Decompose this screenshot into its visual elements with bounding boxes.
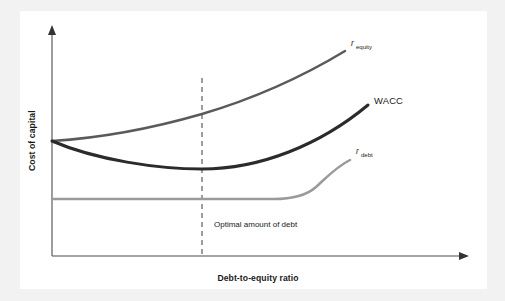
series-label-r-debt-base: r: [356, 147, 359, 156]
series-label-r-equity-base: r: [351, 39, 354, 48]
y-axis-title: Cost of capital: [27, 110, 37, 171]
series-label-wacc: WACC: [374, 95, 403, 106]
optimal-debt-annotation: Optimal amount of debt: [214, 220, 298, 229]
series-label-r-equity: r equity: [351, 39, 372, 50]
x-axis-title: Debt-to-equity ratio: [217, 273, 298, 283]
cost-of-capital-chart: Cost of capital Debt-to-equity ratio Opt…: [20, 11, 487, 289]
figure-root: Cost of capital Debt-to-equity ratio Opt…: [0, 0, 505, 301]
series-label-r-debt: r debt: [356, 147, 373, 158]
y-axis-arrowhead: [48, 25, 56, 35]
curve-r-debt: [52, 160, 350, 199]
series-label-r-equity-subscript: equity: [356, 44, 372, 50]
series-label-r-debt-subscript: debt: [361, 152, 373, 158]
chart-panel: Cost of capital Debt-to-equity ratio Opt…: [20, 11, 487, 289]
curve-r-equity: [52, 51, 345, 141]
x-axis-arrowhead: [459, 252, 469, 260]
